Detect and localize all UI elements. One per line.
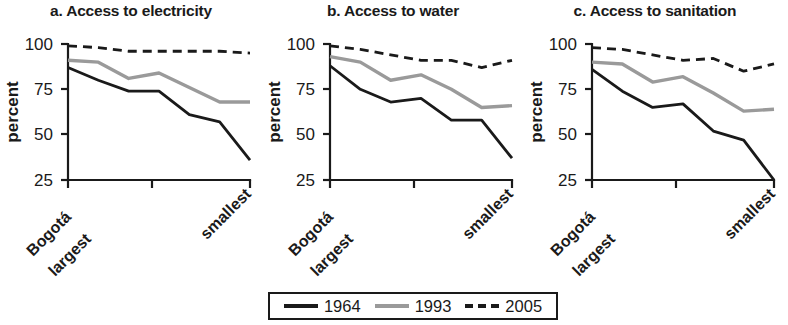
panel-a-series xyxy=(68,46,250,160)
panel-b-ytick-50: 50 xyxy=(296,125,315,144)
chart-legend: 1964 1993 2005 xyxy=(268,292,558,320)
panel-c-plot: percent 100 75 50 25 Bogotá largest smal… xyxy=(524,0,786,278)
panel-a: a. Access to electricity percent 100 75 … xyxy=(0,0,262,278)
panel-b-series xyxy=(330,46,512,158)
legend-label-1964: 1964 xyxy=(324,298,361,315)
legend-item-1964: 1964 xyxy=(277,298,368,315)
panel-a-xtick-smallest: smallest xyxy=(197,185,255,243)
panel-b-axis-lines xyxy=(330,44,512,180)
panel-a-ylabel: percent xyxy=(3,81,22,143)
panel-a-axes: percent 100 75 50 25 Bogotá largest smal… xyxy=(3,35,255,278)
panel-a-ytick-50: 50 xyxy=(34,125,53,144)
panel-c-series xyxy=(592,48,774,180)
legend-swatch-1964-icon xyxy=(284,304,318,308)
figure-access-to-services: a. Access to electricity percent 100 75 … xyxy=(0,0,788,325)
panel-a-plot: percent 100 75 50 25 Bogotá largest smal… xyxy=(0,0,262,278)
panel-b-axes: percent 100 75 50 25 Bogotá largest smal… xyxy=(265,35,517,278)
legend-label-2005: 2005 xyxy=(505,298,542,315)
panel-c: c. Access to sanitation percent 100 75 5… xyxy=(524,0,786,278)
panel-a-ytick-100: 100 xyxy=(25,35,53,54)
panel-c-line-1964 xyxy=(592,69,774,180)
panel-b-line-2005 xyxy=(330,46,512,68)
panel-b-plot: percent 100 75 50 25 Bogotá largest smal… xyxy=(262,0,524,278)
panel-b-xtick-smallest: smallest xyxy=(459,185,517,243)
panel-a-line-1964 xyxy=(68,68,250,160)
legend-swatch-1993-icon xyxy=(375,304,409,308)
legend-swatch-2005-icon xyxy=(465,304,499,308)
panel-a-line-2005 xyxy=(68,46,250,53)
panel-c-ytick-50: 50 xyxy=(558,125,577,144)
panel-a-ytick-25: 25 xyxy=(34,171,53,190)
panel-c-line-2005 xyxy=(592,48,774,72)
panel-c-xtick-smallest: smallest xyxy=(721,185,779,243)
panel-a-line-1993 xyxy=(68,60,250,102)
panel-c-ytick-100: 100 xyxy=(549,35,577,54)
panel-c-ytick-25: 25 xyxy=(558,171,577,190)
legend-item-2005: 2005 xyxy=(458,298,549,315)
legend-item-1993: 1993 xyxy=(368,298,459,315)
panel-b: b. Access to water percent 100 75 50 25 xyxy=(262,0,524,278)
panel-a-ytick-75: 75 xyxy=(34,80,53,99)
panel-c-ylabel: percent xyxy=(527,81,546,143)
panel-a-axis-lines xyxy=(68,44,250,180)
panel-c-ytick-75: 75 xyxy=(558,80,577,99)
panel-b-ytick-75: 75 xyxy=(296,80,315,99)
panel-b-line-1964 xyxy=(330,66,512,158)
legend-label-1993: 1993 xyxy=(415,298,452,315)
panel-b-ytick-100: 100 xyxy=(287,35,315,54)
panel-b-ytick-25: 25 xyxy=(296,171,315,190)
panel-row: a. Access to electricity percent 100 75 … xyxy=(0,0,788,278)
panel-b-ylabel: percent xyxy=(265,81,284,143)
